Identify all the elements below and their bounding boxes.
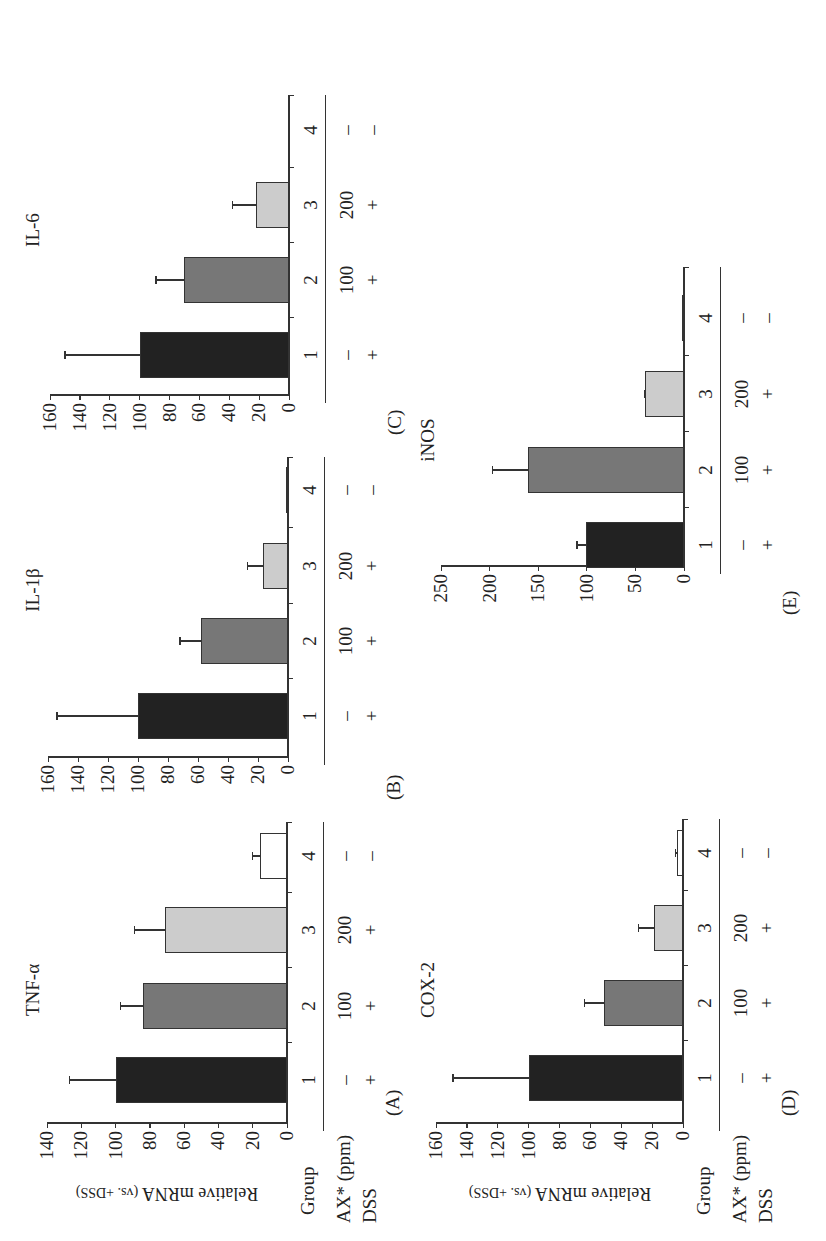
y-tick <box>489 566 490 571</box>
group-label: 4 <box>695 313 717 323</box>
figure-stage: 0204060801001201401–+2100+3200+4––TNF-α(… <box>0 0 826 1241</box>
y-tick-label: 100 <box>577 574 596 620</box>
y-tick-label: 150 <box>528 574 547 620</box>
y-tick-label: 0 <box>674 574 693 620</box>
y-tick <box>441 566 442 571</box>
bar-group-2 <box>528 447 684 493</box>
error-bar-cap <box>644 390 645 398</box>
dss-value: – <box>757 313 779 323</box>
bar-group-4 <box>682 295 684 341</box>
panel-letter: (E) <box>779 591 801 615</box>
error-bar <box>493 469 528 470</box>
y-tick-label: 50 <box>625 574 644 620</box>
x-tick <box>684 355 689 356</box>
error-bar-cap <box>492 466 493 474</box>
y-tick <box>538 566 539 571</box>
group-label: 2 <box>695 465 717 475</box>
dss-value: + <box>757 465 779 476</box>
group-separator-line <box>720 267 721 574</box>
y-tick-label: 200 <box>480 574 499 620</box>
group-label: 1 <box>695 540 717 550</box>
x-tick <box>684 267 689 268</box>
bar-group-1 <box>586 522 684 568</box>
error-bar-cap <box>576 541 577 549</box>
ax-ppm-value: 100 <box>731 456 753 485</box>
ax-ppm-value: – <box>731 313 753 323</box>
ax-ppm-value: – <box>731 540 753 550</box>
ax-ppm-value: 200 <box>731 380 753 409</box>
panel-title: iNOS <box>417 410 439 470</box>
group-label: 3 <box>695 389 717 399</box>
dss-value: + <box>757 540 779 551</box>
bar-group-3 <box>645 371 684 417</box>
dss-value: + <box>757 389 779 400</box>
x-tick <box>684 507 689 508</box>
panel-e-inos: 0501001502002501–+2100+3200+4––iNOS(E) <box>0 0 826 1241</box>
x-tick <box>684 431 689 432</box>
error-bar <box>577 544 586 545</box>
y-tick-label: 250 <box>431 574 450 620</box>
